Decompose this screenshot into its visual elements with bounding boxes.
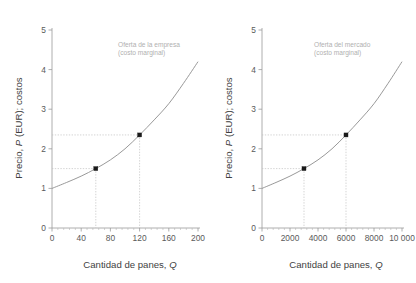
x-tick-label: 6000 (337, 233, 356, 243)
x-tick-label: 10 000 (389, 233, 415, 243)
x-tick-label: 8000 (365, 233, 384, 243)
data-point-marker (94, 167, 98, 171)
y-tick-label: 3 (251, 104, 256, 114)
y-tick-label: 0 (41, 223, 46, 233)
x-tick-label: 120 (133, 233, 147, 243)
x-axis-title: Cantidad de panes, Q (83, 259, 177, 270)
chart-panel-market-supply: 012345 0200040006000800010 000 Oferta de… (208, 0, 416, 283)
data-point-marker (344, 133, 348, 137)
data-point-group (302, 133, 348, 171)
y-tick-group: 012345 (41, 25, 52, 233)
axes-left (52, 28, 200, 228)
y-tick-label: 5 (41, 25, 46, 35)
axes-right (262, 28, 404, 228)
chart-panel-firm-supply: 012345 04080120160200 Oferta de la empre… (0, 0, 208, 283)
x-tick-label: 2000 (281, 233, 300, 243)
y-tick-label: 1 (41, 183, 46, 193)
guide-line-group (262, 135, 346, 228)
x-axis-title: Cantidad de panes, Q (289, 259, 383, 270)
y-tick-label: 2 (41, 144, 46, 154)
annotation-line-2: (costo marginal) (118, 49, 165, 57)
x-tick-label: 80 (106, 233, 116, 243)
x-tick-label: 160 (162, 233, 176, 243)
y-tick-label: 0 (251, 223, 256, 233)
plot-area-left: 012345 04080120160200 Oferta de la empre… (0, 0, 208, 283)
plot-area-right: 012345 0200040006000800010 000 Oferta de… (208, 0, 416, 283)
supply-curve-annotation: Oferta del mercado (costo marginal) (314, 41, 371, 57)
annotation-line-1: Oferta de la empresa (118, 41, 180, 49)
y-tick-group: 012345 (251, 25, 262, 233)
x-tick-label: 200 (191, 233, 205, 243)
x-tick-label: 40 (77, 233, 87, 243)
y-tick-label: 2 (251, 144, 256, 154)
y-axis-title: Precio, P (EUR); costos (13, 77, 24, 179)
supply-curves-figure: 012345 04080120160200 Oferta de la empre… (0, 0, 416, 283)
supply-curve-path (262, 62, 402, 189)
x-tick-label: 4000 (309, 233, 328, 243)
y-tick-label: 3 (41, 104, 46, 114)
x-tick-group: 0200040006000800010 000 (260, 228, 415, 243)
x-tick-group: 04080120160200 (50, 228, 206, 243)
x-tick-label: 0 (260, 233, 265, 243)
annotation-line-2: (costo marginal) (314, 49, 361, 57)
y-tick-label: 5 (251, 25, 256, 35)
y-tick-label: 1 (251, 183, 256, 193)
guide-line-group (52, 135, 140, 228)
data-point-marker (302, 167, 306, 171)
x-tick-label: 0 (50, 233, 55, 243)
annotation-line-1: Oferta del mercado (314, 41, 371, 48)
data-point-group (94, 133, 142, 171)
supply-curve-path (52, 62, 198, 189)
supply-curve-annotation: Oferta de la empresa (costo marginal) (118, 41, 180, 57)
y-axis-title: Precio, P (EUR); costos (223, 77, 234, 179)
data-point-marker (138, 133, 142, 137)
y-tick-label: 4 (41, 65, 46, 75)
y-tick-label: 4 (251, 65, 256, 75)
